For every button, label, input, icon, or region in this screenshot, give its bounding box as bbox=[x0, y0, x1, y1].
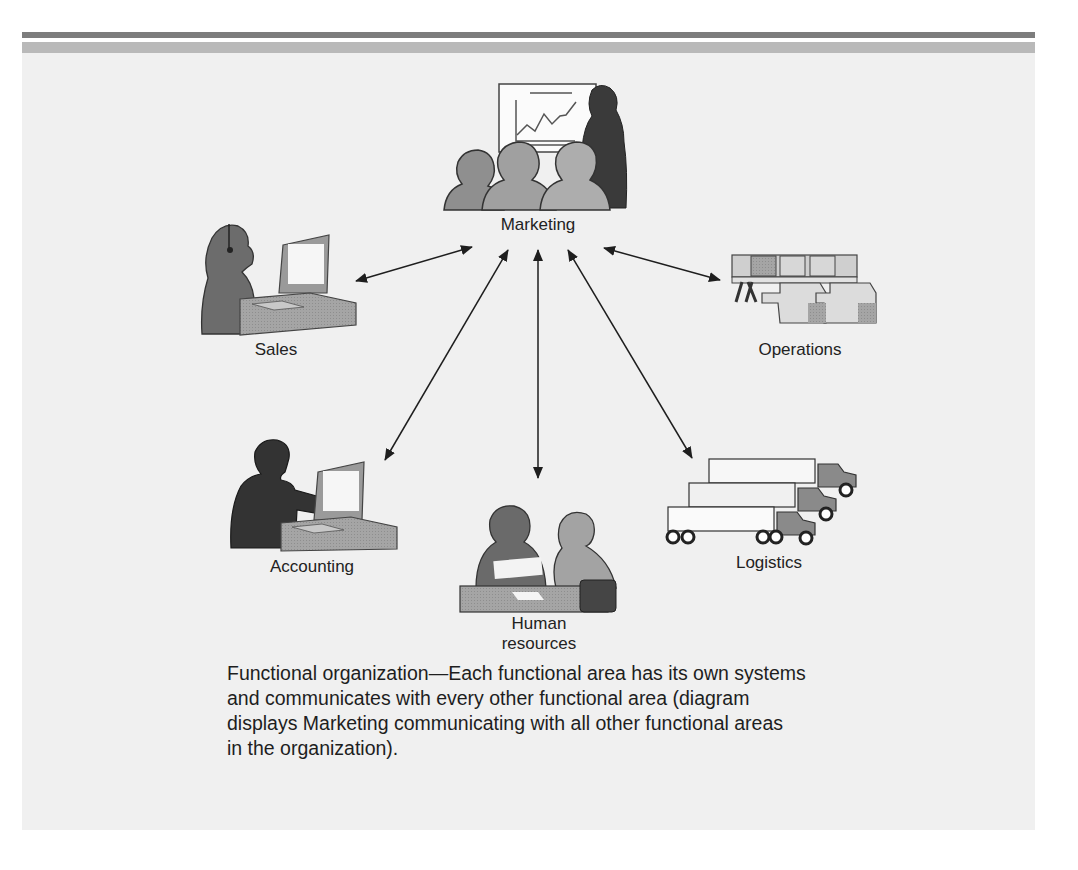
operations-icon bbox=[732, 255, 876, 323]
caption-line: and communicates with every other functi… bbox=[227, 686, 787, 711]
label-human-resources-line1: Human bbox=[495, 614, 583, 634]
caption-line: in the organization). bbox=[227, 736, 787, 761]
marketing-icon bbox=[444, 84, 627, 210]
label-marketing: Marketing bbox=[486, 215, 590, 235]
arrow-marketing-sales bbox=[356, 247, 472, 281]
logistics-icon bbox=[667, 459, 856, 544]
label-logistics: Logistics bbox=[724, 553, 814, 573]
figure-caption: Functional organization—Each functional … bbox=[227, 661, 787, 761]
label-sales: Sales bbox=[236, 340, 316, 360]
arrow-marketing-logistics bbox=[568, 250, 692, 458]
label-human-resources-line2: resources bbox=[495, 634, 583, 654]
arrow-marketing-operations bbox=[604, 248, 720, 280]
sales-icon bbox=[202, 224, 356, 335]
arrow-marketing-accounting bbox=[385, 250, 508, 460]
caption-line: Functional organization—Each functional … bbox=[227, 661, 787, 686]
label-accounting: Accounting bbox=[262, 557, 362, 577]
caption-line: displays Marketing communicating with al… bbox=[227, 711, 787, 736]
human-resources-icon bbox=[460, 506, 616, 612]
accounting-icon bbox=[231, 440, 397, 551]
label-operations: Operations bbox=[750, 340, 850, 360]
